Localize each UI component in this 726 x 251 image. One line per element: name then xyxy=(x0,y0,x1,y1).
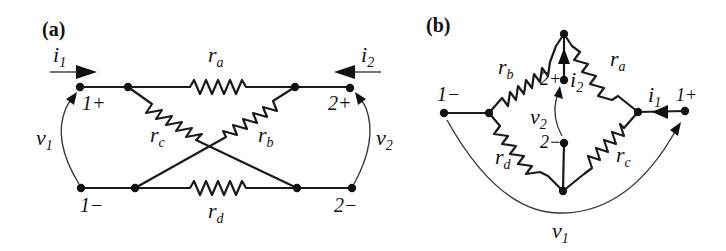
label-rc: rc xyxy=(150,122,166,150)
voltage-arc-v1 xyxy=(61,92,79,184)
label-port-2-plus: 2+ xyxy=(328,92,352,114)
label-rd: rd xyxy=(208,198,225,226)
label-rc: rc xyxy=(616,142,632,170)
label-port-1-minus: 1− xyxy=(80,194,104,216)
label-i1: i1 xyxy=(648,82,661,110)
node-2-minus xyxy=(348,184,356,192)
panel-b-title: (b) xyxy=(426,14,450,37)
label-port-1-plus: 1+ xyxy=(676,85,697,105)
node xyxy=(485,109,493,117)
label-ra: ra xyxy=(208,42,224,70)
label-port-2-minus: 2− xyxy=(334,194,358,216)
label-i1: i1 xyxy=(53,42,66,70)
label-rd: rd xyxy=(495,144,512,172)
wire xyxy=(563,143,564,191)
label-port-1-minus: 1− xyxy=(437,83,461,105)
label-rb: rb xyxy=(258,122,274,150)
node-1-minus xyxy=(77,184,85,192)
current-arrow-i1 xyxy=(50,65,97,79)
label-v1: v1 xyxy=(552,218,569,246)
label-port-1-plus: 1+ xyxy=(82,92,106,114)
label-port-2-plus: 2+ xyxy=(540,69,561,89)
node-1-plus xyxy=(76,83,84,91)
panel-a-title: (a) xyxy=(42,18,65,41)
voltage-arc-v2 xyxy=(554,86,563,136)
node-1-minus xyxy=(440,109,448,117)
panel-a: (a) i1 xyxy=(36,18,393,226)
label-v2: v2 xyxy=(530,104,547,132)
resistor-rc xyxy=(563,112,638,191)
node xyxy=(634,108,642,116)
label-v1: v1 xyxy=(36,125,53,153)
two-port-resistor-diagram: (a) i1 xyxy=(0,0,726,251)
node-2-plus xyxy=(346,84,354,92)
resistor-ra xyxy=(80,80,350,94)
label-v2: v2 xyxy=(376,125,393,153)
node xyxy=(131,184,139,192)
node xyxy=(124,83,132,91)
label-i2: i2 xyxy=(361,42,374,70)
resistor-rd xyxy=(81,181,352,195)
label-rb: rb xyxy=(498,54,514,82)
label-port-2-minus: 2− xyxy=(540,132,561,152)
node xyxy=(559,187,567,195)
current-arrow-i2 xyxy=(558,48,570,64)
node xyxy=(291,83,299,91)
label-i2: i2 xyxy=(570,67,583,95)
node xyxy=(293,184,301,192)
panel-b: (b) xyxy=(426,14,697,246)
voltage-arc-v2 xyxy=(354,92,370,184)
node-1-plus xyxy=(681,107,689,115)
node xyxy=(560,30,568,38)
label-ra: ra xyxy=(610,46,626,74)
